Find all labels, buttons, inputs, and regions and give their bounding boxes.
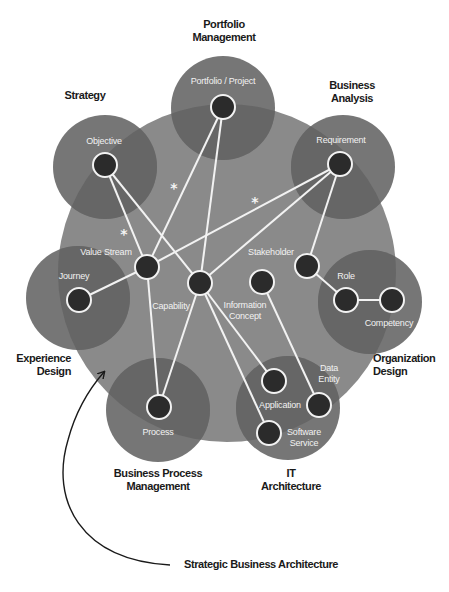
node-label-objective: Objective <box>86 136 122 147</box>
node-label-portfolio-project: Portfolio / Project <box>191 76 256 87</box>
domain-label-organization-design: Organization Design <box>373 352 435 378</box>
data-entity-line1: Data <box>320 363 338 373</box>
node-label-competency: Competency <box>365 318 414 329</box>
info-concept-line2: Concept <box>229 311 261 321</box>
portfolio-line2: Management <box>192 31 255 43</box>
node-label-application: Application <box>259 400 301 411</box>
node-label-journey: Journey <box>59 271 90 282</box>
node-value-stream <box>135 255 159 279</box>
node-label-role: Role <box>337 271 355 282</box>
node-requirement <box>328 152 352 176</box>
info-concept-line1: Information <box>224 300 267 310</box>
experience-line1: Experience <box>16 352 71 364</box>
asterisk-marker: * <box>251 194 258 210</box>
domain-label-business-analysis: Business Analysis <box>329 79 375 105</box>
ba-line1: Business <box>329 79 375 91</box>
bpm-line2: Management <box>126 480 189 492</box>
domain-label-experience-design: Experience Design <box>16 352 71 378</box>
node-role <box>334 288 358 312</box>
node-software-service <box>257 421 281 445</box>
domain-label-it-architecture: IT Architecture <box>261 467 321 493</box>
data-entity-line2: Entity <box>318 374 339 384</box>
node-label-information-concept: Information Concept <box>224 300 267 322</box>
software-service-line1: Software <box>287 427 321 437</box>
portfolio-line1: Portfolio <box>203 18 245 30</box>
asterisk-marker: * <box>170 180 177 196</box>
experience-line2: Design <box>37 365 71 377</box>
node-information-concept <box>250 270 274 294</box>
node-application <box>262 369 286 393</box>
node-label-requirement: Requirement <box>316 135 365 146</box>
node-portfolio-project <box>211 95 235 119</box>
node-label-value-stream: Value Stream <box>80 247 131 258</box>
node-stakeholder <box>295 254 319 278</box>
bpm-line1: Business Process <box>114 467 202 479</box>
node-label-process: Process <box>142 427 173 438</box>
domain-label-portfolio-management: Portfolio Management <box>192 18 255 44</box>
software-service-line2: Service <box>290 438 319 448</box>
node-capability <box>188 271 212 295</box>
ba-line2: Analysis <box>331 92 373 104</box>
node-competency <box>380 288 404 312</box>
organization-line1: Organization <box>373 352 435 364</box>
node-label-capability: Capability <box>152 301 190 312</box>
node-objective <box>93 153 117 177</box>
node-label-stakeholder: Stakeholder <box>248 247 294 258</box>
it-line2: Architecture <box>261 480 321 492</box>
node-label-data-entity: Data Entity <box>318 363 339 385</box>
node-label-software-service: Software Service <box>287 427 321 449</box>
domain-label-business-process-management: Business Process Management <box>114 467 202 493</box>
it-line1: IT <box>287 467 296 479</box>
domain-label-strategy: Strategy <box>65 89 106 102</box>
organization-line2: Design <box>373 365 407 377</box>
asterisk-marker: * <box>120 226 127 242</box>
node-process <box>147 395 171 419</box>
node-journey <box>67 288 91 312</box>
node-data-entity <box>307 393 331 417</box>
caption-strategic-business-architecture: Strategic Business Architecture <box>184 558 338 571</box>
